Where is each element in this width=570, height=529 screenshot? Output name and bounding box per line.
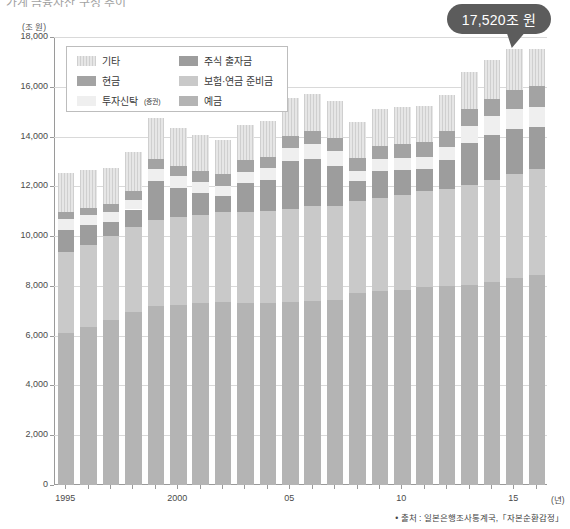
legend: 기타주식 출자금현금보험·연금 준비금투자신탁(증권)예금 (66, 46, 288, 112)
bar-segment-deposit (237, 303, 254, 485)
bar-segment-etc (80, 170, 97, 209)
bar-segment-stock (484, 135, 501, 180)
x-axis-tick (312, 485, 313, 489)
x-axis-tick (88, 485, 89, 489)
bar-2011[interactable] (416, 37, 433, 485)
y-axis-label: 18,000 (2, 31, 48, 41)
callout-bubble: 17,520조 원 (447, 4, 551, 34)
bar-segment-stock (58, 230, 75, 252)
legend-item-stock[interactable]: 주식 출자금 (179, 53, 252, 68)
bar-segment-insure (529, 169, 546, 275)
bar-segment-deposit (327, 300, 344, 485)
bar-segment-deposit (103, 320, 120, 486)
y-axis-label: 14,000 (2, 131, 48, 141)
bar-segment-cash (394, 144, 411, 158)
bar-2016[interactable] (529, 37, 546, 485)
bar-2008[interactable] (349, 37, 366, 485)
bar-segment-deposit (349, 293, 366, 485)
bar-segment-insure (506, 174, 523, 279)
bar-segment-insure (484, 180, 501, 282)
y-axis-tick (50, 236, 54, 237)
bar-segment-stock (461, 143, 478, 185)
bar-segment-deposit (170, 305, 187, 485)
x-axis-tick (267, 485, 268, 489)
bar-segment-insure (148, 220, 165, 306)
legend-item-trust[interactable]: 투자신탁(증권) (77, 93, 161, 108)
legend-item-deposit[interactable]: 예금 (179, 93, 222, 108)
callout-pointer-icon (504, 31, 526, 48)
x-axis-tick (132, 485, 133, 489)
y-axis-label: 16,000 (2, 81, 48, 91)
x-axis-unit: (년) (551, 493, 565, 505)
bar-segment-etc (304, 94, 321, 132)
y-axis-tick (50, 186, 54, 187)
x-axis-tick (536, 485, 537, 489)
bar-segment-deposit (80, 327, 97, 485)
bar-segment-cash (260, 157, 277, 169)
legend-swatch-etc (77, 56, 96, 66)
bar-2012[interactable] (439, 37, 456, 485)
bar-segment-etc (58, 173, 75, 213)
y-axis-label: 6,000 (2, 330, 48, 340)
bar-2015[interactable] (506, 37, 523, 485)
bar-segment-deposit (148, 306, 165, 485)
bar-segment-trust (260, 168, 277, 180)
bar-segment-stock (506, 129, 523, 174)
y-axis-label: 0 (2, 479, 48, 489)
bar-2006[interactable] (304, 37, 321, 485)
bar-2009[interactable] (372, 37, 389, 485)
x-axis-label-2000: 2000 (167, 493, 187, 503)
page-title: 가계 금융자산 구성 추이 (6, 0, 306, 7)
bar-segment-trust (416, 157, 433, 169)
bar-segment-insure (461, 185, 478, 285)
bar-segment-stock (215, 196, 232, 213)
bar-segment-etc (461, 72, 478, 110)
bar-segment-deposit (394, 290, 411, 485)
y-axis-label: 4,000 (2, 379, 48, 389)
bar-segment-trust (327, 151, 344, 167)
bar-2010[interactable] (394, 37, 411, 485)
y-axis-tick (50, 37, 54, 38)
bar-segment-stock (439, 160, 456, 189)
bar-segment-etc (529, 49, 546, 86)
bar-2014[interactable] (484, 37, 501, 485)
legend-swatch-stock (179, 56, 198, 66)
bar-segment-stock (349, 181, 366, 201)
bar-segment-deposit (439, 286, 456, 485)
legend-item-etc[interactable]: 기타 (77, 53, 120, 68)
y-axis-label: 10,000 (2, 230, 48, 240)
x-axis-tick (110, 485, 111, 489)
legend-item-insure[interactable]: 보험·연금 준비금 (179, 73, 273, 88)
bar-2007[interactable] (327, 37, 344, 485)
bar-segment-etc (260, 121, 277, 157)
bar-segment-stock (237, 183, 254, 213)
bar-segment-cash (484, 99, 501, 116)
legend-item-cash[interactable]: 현금 (77, 73, 120, 88)
y-axis-label: 8,000 (2, 280, 48, 290)
bar-segment-cash (80, 208, 97, 214)
bar-segment-trust (484, 116, 501, 135)
bar-segment-insure (372, 198, 389, 291)
legend-label-etc: 기타 (102, 53, 120, 68)
y-axis-line (54, 37, 55, 485)
bar-segment-trust (215, 186, 232, 196)
bar-segment-deposit (125, 312, 142, 485)
bar-segment-deposit (192, 303, 209, 485)
x-axis-tick (289, 485, 290, 489)
bar-segment-stock (282, 161, 299, 208)
bar-segment-cash (439, 131, 456, 146)
x-axis-tick (513, 485, 514, 489)
bar-segment-insure (80, 245, 97, 327)
bar-segment-insure (103, 236, 120, 319)
legend-label-trust: 투자신탁 (102, 93, 138, 108)
y-axis-tick (50, 385, 54, 386)
legend-label-deposit: 예금 (204, 93, 222, 108)
bar-segment-etc (416, 106, 433, 142)
bar-segment-trust (237, 172, 254, 183)
bar-segment-trust (80, 215, 97, 226)
bar-segment-etc (148, 118, 165, 159)
bar-segment-etc (439, 95, 456, 132)
bar-segment-deposit (506, 278, 523, 485)
bar-2013[interactable] (461, 37, 478, 485)
bar-segment-insure (394, 195, 411, 290)
